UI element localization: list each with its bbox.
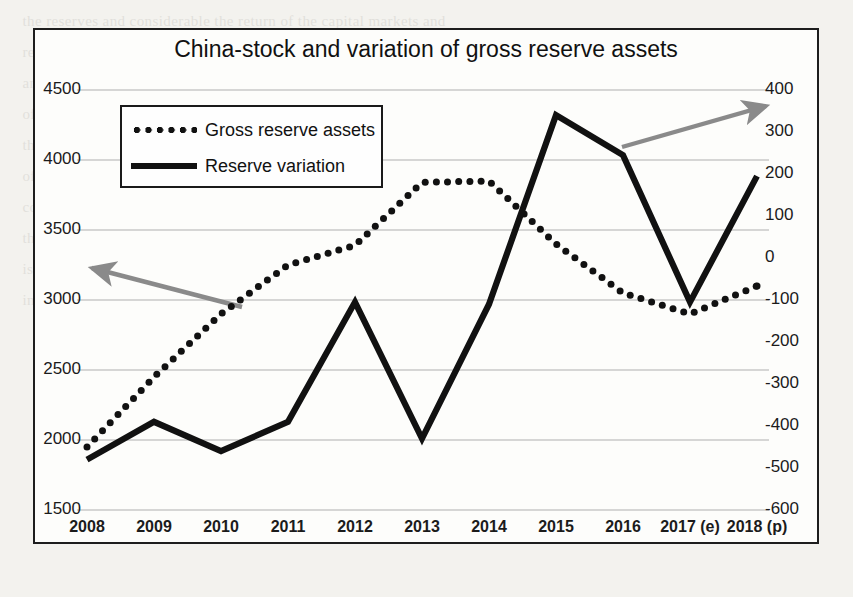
y-axis-right-tick-200: 200 bbox=[765, 163, 819, 183]
legend-swatch-dotted-icon bbox=[131, 123, 197, 137]
y-axis-right-tick-400: 400 bbox=[765, 79, 819, 99]
chart-legend: Gross reserve assets Reserve variation bbox=[120, 105, 383, 188]
y-axis-right-tick-0: 0 bbox=[765, 247, 819, 267]
y-axis-right-tick--200: -200 bbox=[765, 331, 819, 351]
y-axis-left-tick-4500: 4500 bbox=[35, 79, 81, 99]
legend-item-gross-reserve-assets: Gross reserve assets bbox=[131, 113, 375, 147]
legend-swatch-solid-icon bbox=[131, 159, 197, 173]
y-axis-left-tick-2000: 2000 bbox=[35, 429, 81, 449]
y-axis-left-tick-3500: 3500 bbox=[35, 219, 81, 239]
y-axis-left-tick-3000: 3000 bbox=[35, 289, 81, 309]
y-axis-left-tick-1500: 1500 bbox=[35, 499, 81, 519]
y-axis-right-tick--500: -500 bbox=[765, 457, 819, 477]
legend-label-reserve-variation: Reserve variation bbox=[205, 156, 345, 177]
y-axis-right-tick-100: 100 bbox=[765, 205, 819, 225]
arrow-to-left-axis bbox=[92, 268, 242, 307]
legend-item-reserve-variation: Reserve variation bbox=[131, 149, 375, 183]
arrow-to-right-axis bbox=[622, 106, 766, 147]
y-axis-left-tick-4000: 4000 bbox=[35, 149, 81, 169]
legend-label-gross-reserve-assets: Gross reserve assets bbox=[205, 120, 375, 141]
x-axis-tick-2018-p-: 2018 (p) bbox=[715, 518, 799, 536]
y-axis-left-tick-2500: 2500 bbox=[35, 359, 81, 379]
chart-figure: China-stock and variation of gross reser… bbox=[33, 28, 819, 544]
y-axis-right-tick--400: -400 bbox=[765, 415, 819, 435]
y-axis-right-tick--600: -600 bbox=[765, 499, 819, 519]
series-line-gross-reserve-assets bbox=[84, 178, 761, 451]
y-axis-right-tick--100: -100 bbox=[765, 289, 819, 309]
y-axis-right-tick-300: 300 bbox=[765, 121, 819, 141]
y-axis-right-tick--300: -300 bbox=[765, 373, 819, 393]
